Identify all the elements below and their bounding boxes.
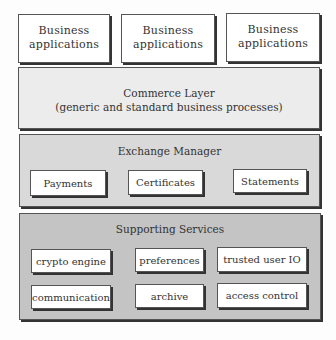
business-app-label-line2: applications bbox=[122, 38, 214, 52]
business-app-label-line2: applications bbox=[227, 37, 319, 51]
crypto-engine-box: crypto engine bbox=[31, 249, 111, 273]
business-applications-box-3: Business applications bbox=[226, 13, 320, 62]
payments-label: Payments bbox=[44, 178, 93, 189]
payments-box: Payments bbox=[30, 170, 106, 196]
statements-label: Statements bbox=[241, 176, 299, 187]
trusted-user-io-box: trusted user IO bbox=[217, 247, 307, 272]
business-applications-box-1: Business applications bbox=[18, 14, 110, 63]
preferences-box: preferences bbox=[135, 248, 204, 272]
commerce-layer-subtitle: (generic and standard business processes… bbox=[19, 100, 319, 114]
preferences-label: preferences bbox=[139, 255, 200, 266]
commerce-layer-title: Commerce Layer bbox=[19, 86, 319, 100]
certificates-box: Certificates bbox=[128, 170, 203, 195]
statements-box: Statements bbox=[233, 169, 307, 193]
certificates-label: Certificates bbox=[136, 177, 195, 188]
communication-box: communication bbox=[31, 285, 111, 309]
business-app-label-line2: applications bbox=[19, 38, 109, 52]
access-control-label: access control bbox=[226, 290, 299, 301]
business-applications-box-2: Business applications bbox=[121, 14, 215, 63]
trusted-user-io-label: trusted user IO bbox=[223, 254, 301, 265]
crypto-engine-label: crypto engine bbox=[36, 256, 106, 267]
business-app-label-line1: Business bbox=[227, 23, 319, 37]
archive-label: archive bbox=[151, 291, 189, 302]
archive-box: archive bbox=[135, 284, 204, 308]
commerce-layer: Commerce Layer (generic and standard bus… bbox=[18, 67, 320, 129]
business-app-label-line1: Business bbox=[122, 24, 214, 38]
access-control-box: access control bbox=[217, 283, 307, 308]
business-app-label-line1: Business bbox=[19, 24, 109, 38]
communication-label: communication bbox=[32, 292, 110, 303]
supporting-services-title: Supporting Services bbox=[20, 222, 320, 236]
exchange-manager-title: Exchange Manager bbox=[20, 144, 319, 158]
